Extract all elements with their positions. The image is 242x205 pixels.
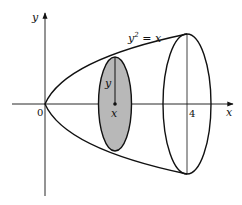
end-x-label: 4 bbox=[189, 108, 195, 119]
x-axis-label: x bbox=[226, 106, 233, 119]
y-axis-label: y bbox=[31, 11, 39, 24]
equation-rhs: = x bbox=[139, 32, 162, 45]
diagram-canvas: y x 0 y2 = x y x 4 bbox=[0, 0, 242, 205]
curve-equation: y2 = x bbox=[127, 31, 162, 45]
radius-label: y bbox=[104, 77, 112, 90]
origin-label: 0 bbox=[37, 107, 43, 118]
center-point bbox=[113, 102, 117, 106]
position-label: x bbox=[111, 107, 118, 120]
